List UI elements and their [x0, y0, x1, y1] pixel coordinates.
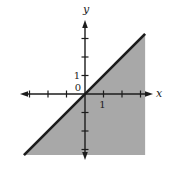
y-unit-label: 1	[74, 70, 80, 81]
x-axis-label: x	[156, 87, 163, 100]
x-axis-arrow-left	[20, 91, 28, 97]
inequality-graph-figure: yx011	[0, 0, 170, 176]
inequality-graph-canvas: yx011	[0, 0, 170, 176]
y-axis-arrow-top	[82, 20, 88, 28]
origin-label: 0	[75, 82, 81, 93]
x-unit-label: 1	[99, 99, 105, 110]
x-axis-arrow-right	[145, 91, 153, 97]
y-axis-arrow-bottom	[82, 152, 88, 160]
y-axis-label: y	[82, 3, 90, 16]
